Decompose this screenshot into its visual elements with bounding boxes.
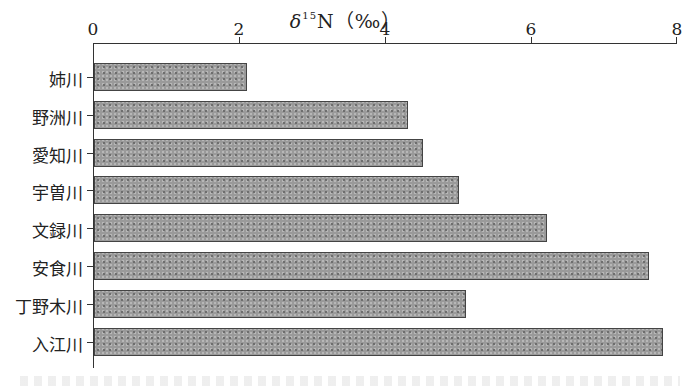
x-tick-label: 8 xyxy=(672,19,683,39)
title-superscript: 15 xyxy=(302,10,317,21)
bar xyxy=(94,328,663,356)
y-category-label: 丁野木川 xyxy=(15,293,83,318)
y-category-label: 愛知川 xyxy=(32,142,83,167)
x-tick-label: 2 xyxy=(234,19,245,39)
title-delta: δ xyxy=(290,10,302,32)
y-tick xyxy=(87,342,93,343)
y-tick xyxy=(87,304,93,305)
bar xyxy=(94,252,649,280)
y-tick xyxy=(87,228,93,229)
x-axis-line xyxy=(93,43,677,44)
y-category-label: 入江川 xyxy=(32,331,83,356)
x-tick-label: 4 xyxy=(380,19,391,39)
y-category-label: 文録川 xyxy=(32,217,83,242)
bar xyxy=(94,139,423,167)
y-tick xyxy=(87,77,93,78)
y-axis-line xyxy=(93,43,94,368)
y-tick xyxy=(87,153,93,154)
bar xyxy=(94,101,408,129)
y-category-label: 安食川 xyxy=(32,255,83,280)
figure-caption-faded xyxy=(20,376,680,386)
bar xyxy=(94,176,459,204)
y-category-label: 野洲川 xyxy=(32,104,83,129)
y-category-label: 宇曽川 xyxy=(32,179,83,204)
bar xyxy=(94,290,466,318)
y-tick xyxy=(87,190,93,191)
bar xyxy=(94,63,247,91)
x-tick-label: 6 xyxy=(526,19,537,39)
chart-title: δ15N（‰） xyxy=(0,6,691,33)
y-tick xyxy=(87,266,93,267)
y-tick xyxy=(87,115,93,116)
bar xyxy=(94,214,547,242)
x-tick-label: 0 xyxy=(88,19,99,39)
y-category-label: 姉川 xyxy=(49,66,83,91)
